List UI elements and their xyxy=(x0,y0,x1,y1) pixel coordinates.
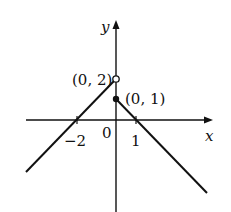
tick-label-minus-2: −2 xyxy=(64,132,86,150)
filled-point-0-1 xyxy=(113,96,119,102)
y-axis-label: y xyxy=(100,18,110,36)
tick-label-1: 1 xyxy=(131,132,141,150)
y-axis-arrow-icon xyxy=(113,20,120,29)
origin-label: 0 xyxy=(102,124,112,142)
point-label-0-2: (0, 2) xyxy=(72,71,112,89)
right-branch-line xyxy=(116,99,207,193)
point-label-0-1: (0, 1) xyxy=(125,90,165,108)
x-axis-label: x xyxy=(205,127,214,145)
graph-canvas: y x 0 −2 1 (0, 2) (0, 1) xyxy=(0,0,231,212)
open-point-0-2 xyxy=(113,76,119,82)
left-branch-line xyxy=(26,82,114,173)
x-axis-arrow-icon xyxy=(204,117,213,124)
